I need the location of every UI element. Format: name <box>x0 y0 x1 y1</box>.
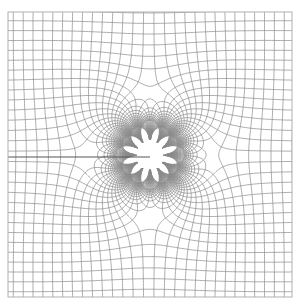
plot-frame <box>8 12 292 297</box>
conformal-map-figure <box>0 0 300 308</box>
grid-lines <box>0 0 300 308</box>
level-curves <box>0 0 300 308</box>
grid-plot <box>0 0 300 308</box>
